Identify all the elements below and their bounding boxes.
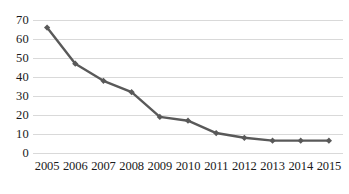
plot-area: [33, 20, 343, 153]
x-tick-label: 2014: [287, 160, 315, 180]
y-tick-label: 0: [0, 147, 29, 160]
x-axis: 2005200620072008200920102011201220132014…: [33, 160, 343, 180]
data-point-marker: [298, 138, 304, 144]
y-tick-label: 50: [0, 52, 29, 65]
data-point-marker: [241, 135, 247, 141]
y-axis: 010203040506070: [0, 20, 29, 153]
x-tick-label: 2008: [118, 160, 146, 180]
y-tick-label: 10: [0, 128, 29, 141]
y-tick-label: 70: [0, 14, 29, 27]
data-point-marker: [326, 138, 332, 144]
y-tick-label: 30: [0, 90, 29, 103]
data-point-marker: [269, 138, 275, 144]
x-tick-label: 2006: [61, 160, 89, 180]
x-tick-label: 2015: [315, 160, 343, 180]
x-tick-label: 2012: [230, 160, 258, 180]
x-tick-label: 2005: [33, 160, 61, 180]
y-tick-label: 40: [0, 71, 29, 84]
line-chart: 010203040506070 200520062007200820092010…: [0, 0, 349, 194]
x-tick-label: 2013: [259, 160, 287, 180]
x-tick-label: 2009: [146, 160, 174, 180]
x-tick-label: 2007: [89, 160, 117, 180]
x-tick-label: 2011: [202, 160, 230, 180]
gridline-0: [33, 153, 343, 154]
y-tick-label: 60: [0, 33, 29, 46]
y-tick-label: 20: [0, 109, 29, 122]
series-line: [33, 20, 343, 153]
x-tick-label: 2010: [174, 160, 202, 180]
